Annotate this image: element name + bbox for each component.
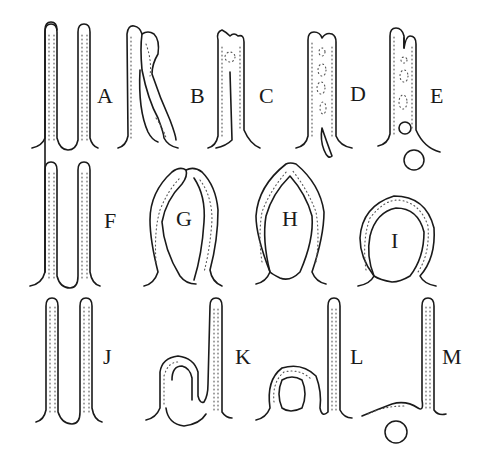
panel-label-I: I [391, 230, 398, 252]
panel-label-K: K [235, 346, 251, 368]
panel-M-drawing [362, 298, 446, 443]
panel-K-drawing [146, 298, 232, 426]
panel-B-drawing [118, 26, 178, 148]
panel-label-J: J [103, 346, 112, 368]
panel-label-E: E [430, 85, 443, 107]
villus-diagram: A B C D E F G H I J K L M [0, 0, 485, 461]
panel-C-drawing [208, 30, 260, 148]
diagram-drawing [0, 0, 485, 461]
panel-label-A: A [97, 85, 113, 107]
panel-D-drawing [296, 32, 352, 157]
panel-A-drawing [32, 24, 98, 150]
panel-label-G: G [176, 208, 192, 230]
panel-label-F: F [104, 210, 116, 232]
panel-label-L: L [350, 346, 363, 368]
panel-J-drawing [36, 298, 102, 424]
panel-label-D: D [350, 83, 366, 105]
panel-label-H: H [282, 208, 298, 230]
panel-label-M: M [442, 346, 462, 368]
panel-L-drawing [256, 298, 352, 420]
panel-label-B: B [190, 85, 205, 107]
panel-label-C: C [259, 85, 274, 107]
